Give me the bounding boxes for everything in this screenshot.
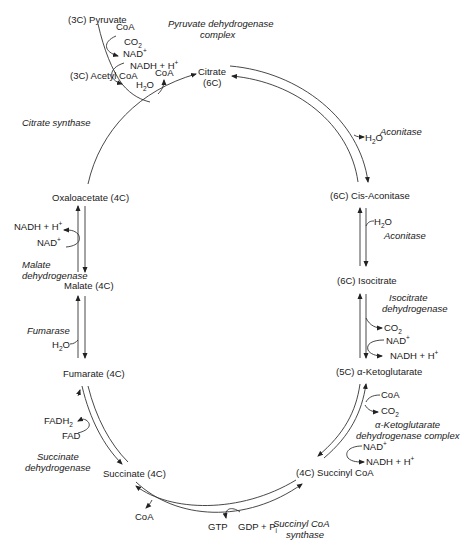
h2o-label: H2O	[136, 79, 154, 92]
gdp-pi-label: GDP + Pi	[238, 521, 277, 534]
co2-akg-label: CO2	[381, 405, 399, 418]
sdh-enzyme-label-2: dehydrogenase	[25, 462, 91, 473]
fumarate-label: Fumarate (4C)	[63, 368, 125, 379]
coa-label: CoA	[116, 21, 135, 32]
nadh-idh-label: NADH + H+	[390, 349, 439, 361]
nad-label: NAD+	[123, 47, 147, 59]
fad-label: FAD	[62, 430, 81, 441]
citrate-carbon-label: (6C)	[203, 77, 221, 88]
aconitase-enzyme-label-1: Aconitase	[379, 126, 422, 137]
fadh2-label: FADH2	[44, 415, 73, 428]
succinyl-coa-synthase-label: Succinyl CoA	[273, 518, 330, 529]
fumarase-label: Fumarase	[27, 325, 70, 336]
h2o-aconitase2-label: H2O	[374, 216, 392, 229]
pdh-enzyme-label: Pyruvate dehydrogenase	[168, 18, 274, 29]
nad-idh-label: NAD+	[386, 334, 410, 346]
malate-label: Malate (4C)	[64, 280, 114, 291]
idh-enzyme-label-2: dehydrogenase	[382, 303, 448, 314]
citrate-synthase-label: Citrate synthase	[22, 117, 91, 128]
akgdh-enzyme-label-2: dehydrogenase complex	[356, 430, 461, 441]
gtp-label: GTP	[208, 521, 228, 532]
nad-akg-label: NAD+	[363, 440, 387, 452]
citric-acid-cycle-diagram: (3C) Pyruvate CoA CO2 NAD+ NADH + H+ Pyr…	[0, 0, 471, 552]
succinate-label: Succinate (4C)	[103, 468, 166, 479]
alpha-ketoglutarate-label: (5C) α-Ketoglutarate	[336, 366, 422, 377]
citrate-label: Citrate	[198, 66, 226, 77]
idh-enzyme-label: Isocitrate	[389, 292, 428, 303]
co2-idh-label: CO2	[384, 322, 402, 335]
coa-release-label: CoA	[155, 67, 174, 78]
oxaloacetate-label: Oxaloacetate (4C)	[52, 192, 129, 203]
nadh-mdh-label: NADH + H+	[14, 220, 63, 232]
aconitase-enzyme-label-2: Aconitase	[383, 230, 426, 241]
coa-akg-label: CoA	[381, 389, 400, 400]
cis-aconitase-label: (6C) Cis-Aconitase	[330, 190, 410, 201]
pdh-enzyme-label-2: complex	[200, 29, 237, 40]
akgdh-enzyme-label: α-Ketoglutarate	[375, 419, 440, 430]
succinyl-coa-synthase-label-2: synthase	[286, 529, 324, 540]
isocitrate-label: (6C) Isocitrate	[337, 275, 397, 286]
acetyl-coa-label: (3C) Acetyl CoA	[70, 70, 138, 81]
nad-mdh-label: NAD+	[37, 236, 61, 248]
succinyl-coa-label: (4C) Succinyl CoA	[296, 467, 374, 478]
nadh-akg-label: NADH + H+	[366, 455, 415, 467]
mdh-enzyme-label-2: dehydrogenase	[22, 270, 88, 281]
h2o-fumarase-label: H2O	[52, 339, 70, 352]
mdh-enzyme-label: Malate	[22, 259, 51, 270]
coa-succinate-label: CoA	[135, 511, 154, 522]
sdh-enzyme-label: Succinate	[37, 451, 79, 462]
